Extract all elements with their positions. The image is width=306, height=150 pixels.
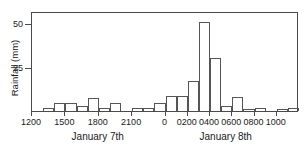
x-tick-mark: [64, 112, 65, 116]
bar: [166, 96, 177, 111]
bar: [177, 96, 188, 111]
x-tick-label: 0400: [199, 117, 219, 127]
x-tick-label: 2100: [121, 117, 141, 127]
bar: [132, 108, 143, 112]
bar: [54, 103, 65, 111]
bar: [199, 22, 210, 111]
x-tick-mark: [254, 112, 255, 116]
x-group-label: January 7th: [72, 131, 124, 142]
x-tick-mark: [209, 112, 210, 116]
bar: [65, 103, 76, 111]
bar: [77, 106, 88, 111]
bar: [188, 81, 199, 111]
y-axis: Rainfall (mm) 2550: [0, 0, 31, 150]
x-tick-label: 0600: [221, 117, 241, 127]
x-tick-mark: [131, 112, 132, 116]
bar: [232, 97, 243, 111]
x-tick-mark: [31, 112, 32, 116]
bar: [277, 109, 288, 111]
bar: [243, 109, 254, 111]
bar: [99, 108, 110, 111]
bar-series: [32, 13, 297, 111]
bar: [255, 108, 266, 112]
bar: [43, 108, 54, 111]
bar: [143, 108, 154, 112]
x-tick-label: 0: [162, 117, 167, 127]
x-tick-label: 1200: [21, 117, 41, 127]
x-tick-mark: [231, 112, 232, 116]
x-group-label: January 8th: [200, 131, 252, 142]
x-tick-mark: [276, 112, 277, 116]
x-tick-label: 1500: [54, 117, 74, 127]
y-tick-label: 50: [13, 20, 23, 29]
bar: [88, 98, 99, 111]
x-tick-label: 0800: [243, 117, 263, 127]
x-axis: 1200150018002100002000400060008001000 Ja…: [31, 112, 298, 150]
plot-area: [31, 12, 298, 112]
x-tick-label: 1800: [88, 117, 108, 127]
bar: [288, 108, 299, 112]
bar: [154, 103, 165, 111]
rainfall-chart: Rainfall (mm) 2550 120015001800210000200…: [0, 0, 306, 150]
y-tick-label: 25: [13, 64, 23, 73]
bar: [210, 58, 221, 111]
x-tick-label: 1000: [266, 117, 286, 127]
bar: [221, 106, 232, 111]
x-tick-mark: [98, 112, 99, 116]
x-tick-mark: [187, 112, 188, 116]
x-tick-mark: [165, 112, 166, 116]
x-tick-label: 0200: [177, 117, 197, 127]
bar: [110, 103, 121, 111]
